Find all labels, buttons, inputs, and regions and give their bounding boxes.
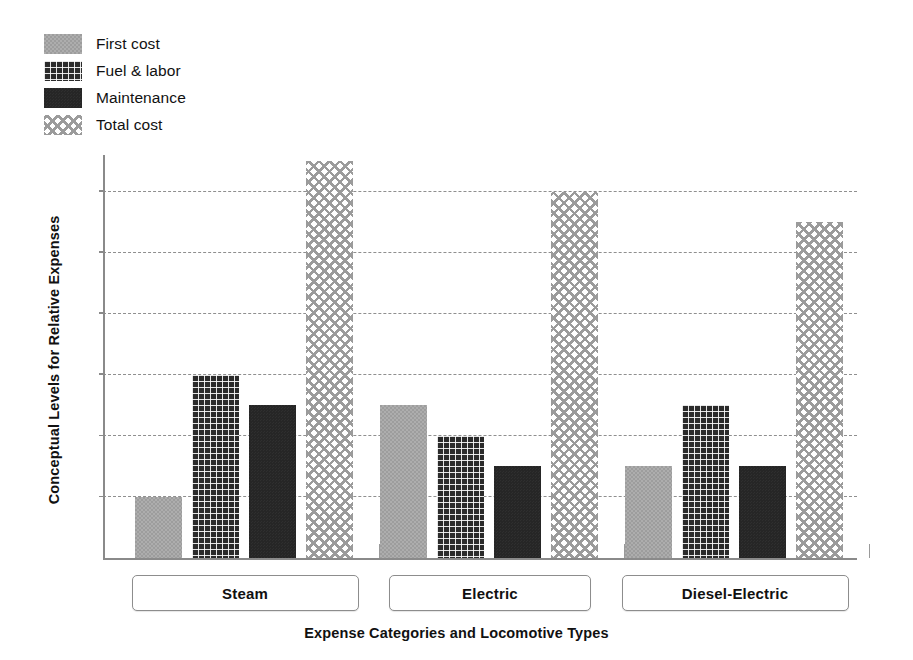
category-box-steam: Steam — [132, 575, 359, 611]
y-axis-tick — [99, 312, 105, 313]
legend-item-fuel-labor: Fuel & labor — [44, 57, 304, 84]
legend-item-total-cost: Total cost — [44, 111, 304, 138]
y-axis-tick — [99, 373, 105, 374]
y-axis-tick — [99, 496, 105, 497]
legend-swatch-total-cost — [44, 115, 82, 135]
plot-area — [103, 155, 857, 558]
legend-item-first-cost: First cost — [44, 30, 304, 57]
legend-label-first-cost: First cost — [96, 35, 160, 53]
bar — [551, 192, 598, 558]
bar — [380, 405, 427, 558]
gridline — [103, 252, 857, 253]
y-axis-tick — [99, 435, 105, 436]
bar — [135, 497, 182, 558]
category-box-electric: Electric — [389, 575, 591, 611]
gridline — [103, 313, 857, 314]
legend-label-maintenance: Maintenance — [96, 89, 186, 107]
legend-label-total-cost: Total cost — [96, 116, 162, 134]
bar — [494, 466, 541, 558]
category-label: Diesel-Electric — [682, 585, 788, 602]
gridline — [103, 191, 857, 192]
category-box-diesel-electric: Diesel-Electric — [622, 575, 849, 611]
chart-legend: First cost Fuel & labor Maintenance Tota… — [44, 30, 304, 138]
category-label: Electric — [462, 585, 518, 602]
bar — [192, 375, 239, 558]
chart-figure: First cost Fuel & labor Maintenance Tota… — [0, 0, 913, 660]
group-separator-tick — [869, 544, 870, 558]
bar — [306, 161, 353, 558]
category-label: Steam — [222, 585, 268, 602]
y-axis-title: Conceptual Levels for Relative Expenses — [46, 160, 62, 560]
bar — [739, 466, 786, 558]
y-axis-line — [103, 155, 105, 558]
bar — [437, 436, 484, 558]
bar — [796, 222, 843, 558]
bar — [249, 405, 296, 558]
legend-swatch-maintenance — [44, 88, 82, 108]
x-axis-title: Expense Categories and Locomotive Types — [0, 625, 913, 641]
bar — [682, 405, 729, 558]
bar — [625, 466, 672, 558]
y-axis-tick — [99, 251, 105, 252]
legend-item-maintenance: Maintenance — [44, 84, 304, 111]
legend-label-fuel-labor: Fuel & labor — [96, 62, 181, 80]
legend-swatch-fuel-labor — [44, 61, 82, 81]
y-axis-tick — [99, 190, 105, 191]
legend-swatch-first-cost — [44, 34, 82, 54]
x-axis-line — [103, 558, 857, 560]
